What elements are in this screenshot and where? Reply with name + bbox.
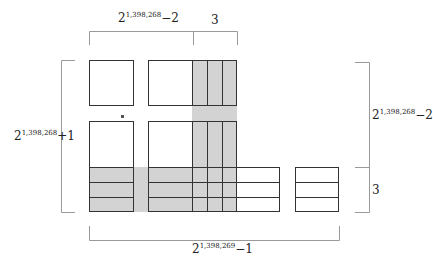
box-far-right — [296, 168, 339, 212]
dot-marker — [121, 115, 124, 118]
label-right-three: 3 — [372, 184, 380, 196]
bracket-bottom — [90, 226, 340, 241]
label-bottom-width: 21,398,269−1 — [192, 243, 253, 255]
box-top-left — [90, 61, 134, 106]
shaded-regions — [89, 60, 237, 212]
bracket-top — [90, 32, 238, 46]
label-top-width: 21,398,268−2 — [118, 12, 179, 24]
strip-right — [237, 168, 280, 212]
bracket-right — [355, 63, 370, 213]
label-top-three: 3 — [211, 14, 219, 26]
label-right-height: 21,398,268−2 — [372, 109, 433, 121]
label-left-height: 21,398,268+1 — [14, 130, 75, 142]
